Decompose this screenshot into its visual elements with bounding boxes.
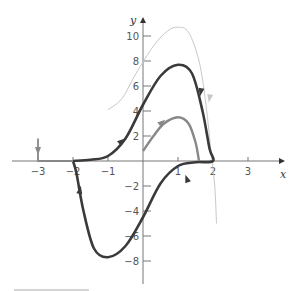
y-tick-label: −8 [124, 256, 139, 267]
y-tick-label: 8 [133, 56, 139, 67]
axis-ticks: −3−2−1123108642−2−4−6−8 [31, 31, 252, 267]
y-tick-label: 10 [126, 31, 139, 42]
series-line [38, 139, 73, 162]
series-group [38, 27, 217, 257]
direction-arrow-icon [206, 94, 213, 103]
direction-arrow-icon [183, 174, 191, 184]
y-axis-label: y [129, 14, 137, 27]
x-axis-label: x [280, 168, 287, 181]
y-tick-label: −4 [124, 206, 139, 217]
phase-plane-chart: x y −3−2−1123108642−2−4−6−8 [0, 0, 296, 291]
y-tick-label: 2 [133, 131, 139, 142]
direction-arrow-icon [35, 147, 41, 155]
y-tick-label: −2 [124, 181, 139, 192]
y-tick-label: 6 [133, 81, 139, 92]
x-tick-label: −1 [101, 166, 116, 177]
series-line [143, 117, 199, 161]
x-tick-label: 3 [245, 166, 251, 177]
x-tick-label: −3 [31, 166, 46, 177]
